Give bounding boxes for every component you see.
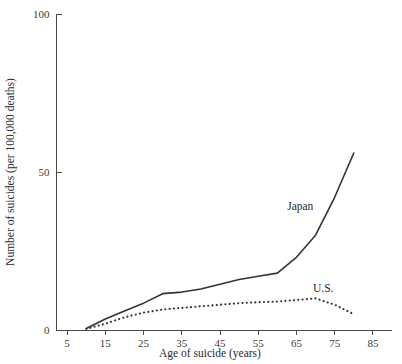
x-tick-label-85: 85 [367, 337, 379, 349]
data-series [86, 153, 354, 329]
y-tick-labels: 050100 [33, 8, 50, 336]
y-tick-label-50: 50 [38, 166, 50, 178]
series-line-u-s [86, 298, 354, 329]
series-line-japan [86, 153, 354, 328]
chart-figure: 51525354555657585 050100 JapanU.S. Age o… [0, 0, 402, 364]
x-tick-label-15: 15 [100, 337, 112, 349]
x-axis-title: Age of suicide (years) [159, 347, 261, 360]
x-tick-label-75: 75 [329, 337, 341, 349]
y-tick-label-100: 100 [33, 8, 50, 20]
x-tick-label-5: 5 [64, 337, 70, 349]
annotation-japan: Japan [287, 200, 313, 213]
y-tick-label-0: 0 [44, 324, 50, 336]
y-axis-title: Number of suicides (per 100,000 deaths) [4, 78, 17, 266]
x-tick-label-65: 65 [291, 337, 303, 349]
line-chart: 51525354555657585 050100 JapanU.S. Age o… [0, 0, 402, 364]
annotation-u-s: U.S. [313, 282, 334, 294]
x-tick-label-25: 25 [138, 337, 150, 349]
